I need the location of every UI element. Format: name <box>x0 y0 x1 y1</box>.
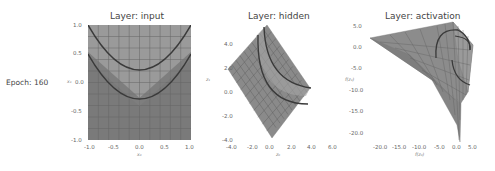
input-y-tick: 0.0 <box>75 79 84 85</box>
hidden-x-tick: 2.0 <box>287 144 296 150</box>
hidden-y-label: z₁ <box>206 77 210 82</box>
activation-y-tick: -15.0 <box>349 108 363 114</box>
activation-x-tick: -15.0 <box>392 144 406 150</box>
input-y-label: x₁ <box>67 79 71 84</box>
activation-x-label: f(z₀) <box>415 152 424 157</box>
input-y-tick: 1.0 <box>73 22 82 28</box>
hidden-x-tick: 0.0 <box>265 144 274 150</box>
activation-x-tick: 5.0 <box>468 144 477 150</box>
input-x-tick: 0.0 <box>135 144 144 150</box>
hidden-y-tick: 2.0 <box>224 65 233 71</box>
hidden-y-tick: -4.0 <box>222 137 233 143</box>
input-y-tick: 0.5 <box>73 50 82 56</box>
activation-x-tick: -10.0 <box>412 144 426 150</box>
activation-y-label: f(z₁) <box>345 77 354 82</box>
hidden-y-tick: 0.0 <box>224 89 233 95</box>
hidden-x-label: z₀ <box>276 152 280 157</box>
activation-panel <box>370 22 473 142</box>
input-panel <box>88 25 191 140</box>
input-x-tick: 1.0 <box>185 144 194 150</box>
activation-y-tick: -5.0 <box>351 65 362 71</box>
hidden-x-tick: 6.0 <box>328 144 337 150</box>
activation-y-tick: -20.0 <box>349 130 363 136</box>
activation-y-tick: 5.0 <box>353 23 362 29</box>
input-x-tick: 0.5 <box>160 144 169 150</box>
activation-x-tick: -5.0 <box>434 144 445 150</box>
input-x-label: x₀ <box>137 152 141 157</box>
input-y-tick: -1.0 <box>71 137 82 143</box>
hidden-y-tick: 4.0 <box>224 41 233 47</box>
input-x-tick: -0.5 <box>108 144 119 150</box>
activation-x-tick: -20.0 <box>373 144 387 150</box>
epoch-label: Epoch: 160 <box>6 78 48 87</box>
hidden-panel <box>228 25 311 138</box>
hidden-panel-title: Layer: hidden <box>248 11 310 21</box>
activation-panel-title: Layer: activation <box>385 11 460 21</box>
activation-y-tick: 0.0 <box>353 44 362 50</box>
input-y-tick: -0.5 <box>71 108 82 114</box>
hidden-x-tick: 4.0 <box>307 144 316 150</box>
activation-y-tick: -10.0 <box>349 87 363 93</box>
activation-x-tick: 0.0 <box>452 144 461 150</box>
hidden-x-tick: -2.0 <box>247 144 258 150</box>
hidden-x-tick: -4.0 <box>226 144 237 150</box>
input-panel-title: Layer: input <box>110 11 164 21</box>
input-x-tick: -1.0 <box>84 144 95 150</box>
hidden-y-tick: -2.0 <box>222 113 233 119</box>
